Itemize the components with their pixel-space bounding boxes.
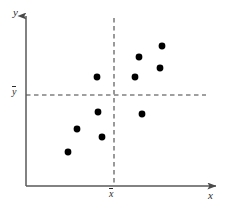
data-point (74, 126, 81, 133)
scatter-plot-figure: y x y x (0, 0, 230, 212)
y-mean-tick-label-text: y (12, 86, 16, 98)
data-point (65, 149, 72, 156)
y-mean-tick-label: y (12, 86, 16, 98)
y-axis-label: y (13, 7, 18, 18)
x-axis-label: x (208, 190, 213, 201)
data-point (95, 109, 102, 116)
plot-canvas (0, 0, 230, 212)
x-mean-tick-label-text: x (109, 188, 113, 200)
data-point (157, 65, 164, 72)
data-point (136, 54, 143, 61)
data-point (94, 74, 101, 81)
data-point (139, 111, 146, 118)
data-point (159, 43, 166, 50)
x-mean-tick-label: x (109, 188, 113, 200)
data-point (132, 74, 139, 81)
data-point-group (65, 43, 166, 156)
data-point (99, 134, 106, 141)
